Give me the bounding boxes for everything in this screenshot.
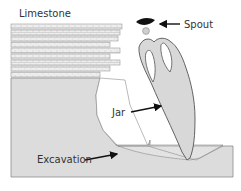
jar bbox=[139, 38, 195, 160]
spout-label: Spout bbox=[184, 19, 213, 30]
stratum-layer bbox=[11, 66, 110, 71]
stratum-layer bbox=[11, 24, 122, 29]
stratum-layer bbox=[11, 30, 120, 35]
jar-label: Jar bbox=[111, 107, 126, 118]
spout-icon bbox=[136, 18, 155, 25]
stratum-layer bbox=[11, 36, 118, 41]
stratum-layer bbox=[11, 60, 120, 65]
limestone-label: Limestone bbox=[19, 8, 71, 19]
stratum-layer bbox=[11, 48, 120, 53]
stratum-layer bbox=[11, 54, 110, 59]
excavation-diagram: Limestone Spout Jar Excavation bbox=[0, 0, 241, 191]
drip-icon bbox=[143, 28, 150, 35]
jar-arrow bbox=[131, 106, 161, 112]
limestone-strata bbox=[11, 24, 122, 77]
stratum-layer bbox=[11, 72, 100, 77]
excavation-label: Excavation bbox=[37, 154, 92, 165]
stratum-layer bbox=[11, 42, 110, 47]
